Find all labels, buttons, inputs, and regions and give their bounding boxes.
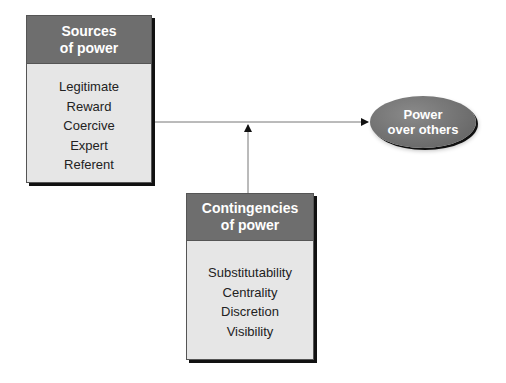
outcome-line2: over others — [388, 122, 459, 137]
list-item: Discretion — [187, 302, 313, 322]
list-item: Reward — [27, 97, 151, 117]
sources-header: Sources of power — [27, 16, 151, 64]
list-item: Coercive — [27, 116, 151, 136]
contingencies-title-line2: of power — [187, 217, 313, 234]
sources-list: Legitimate Reward Coercive Expert Refere… — [27, 64, 151, 175]
outcome-line1: Power — [403, 107, 442, 122]
list-item: Referent — [27, 155, 151, 175]
sources-of-power-box: Sources of power Legitimate Reward Coerc… — [26, 15, 152, 183]
list-item: Substitutability — [187, 263, 313, 283]
list-item: Legitimate — [27, 77, 151, 97]
sources-title-line2: of power — [27, 40, 151, 57]
contingencies-header: Contingencies of power — [187, 194, 313, 241]
list-item: Visibility — [187, 322, 313, 342]
list-item: Centrality — [187, 283, 313, 303]
contingencies-title-line1: Contingencies — [187, 200, 313, 217]
sources-title-line1: Sources — [27, 23, 151, 40]
contingencies-of-power-box: Contingencies of power Substitutability … — [186, 193, 314, 360]
list-item: Expert — [27, 136, 151, 156]
contingencies-list: Substitutability Centrality Discretion V… — [187, 241, 313, 341]
power-over-others-node: Power over others — [370, 96, 476, 148]
